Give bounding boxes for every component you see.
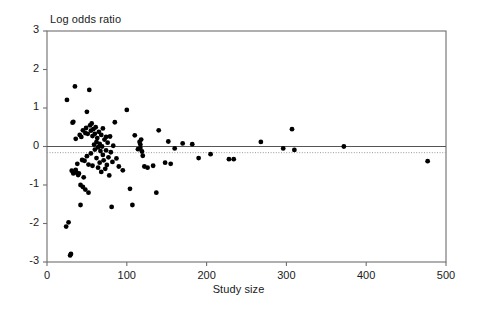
data-point [90, 163, 95, 168]
data-point [69, 252, 74, 257]
data-point [290, 127, 295, 132]
x-tick-label: 300 [266, 269, 306, 281]
data-point [140, 153, 145, 158]
data-point [81, 175, 86, 180]
data-point [128, 186, 133, 191]
data-point [130, 203, 135, 208]
data-point [100, 153, 105, 158]
y-tick-label: -2 [17, 216, 39, 228]
data-point [105, 140, 110, 145]
data-point [77, 171, 82, 176]
data-point [73, 136, 78, 141]
y-tick-label: -1 [17, 177, 39, 189]
data-point [85, 154, 90, 159]
data-point [66, 220, 71, 225]
data-point [94, 156, 99, 161]
data-point [86, 190, 91, 195]
data-point [100, 126, 105, 131]
axis-ticks [43, 31, 446, 266]
data-point [104, 163, 109, 168]
y-tick-label: 3 [17, 23, 39, 35]
data-point [168, 161, 173, 166]
data-point [227, 157, 232, 162]
data-point [107, 173, 112, 178]
data-point [166, 139, 171, 144]
scatter-plot-canvas [0, 0, 477, 311]
data-points [64, 84, 430, 258]
data-point [111, 143, 116, 148]
data-point [112, 120, 117, 125]
data-point [163, 160, 168, 165]
data-point [101, 158, 106, 163]
data-point [82, 158, 87, 163]
data-point [108, 134, 113, 139]
data-point [95, 136, 100, 141]
y-tick-label: 2 [17, 62, 39, 74]
data-point [154, 190, 159, 195]
data-point [190, 142, 195, 147]
data-point [106, 155, 111, 160]
data-point [116, 164, 121, 169]
data-point [104, 148, 109, 153]
x-tick-label: 200 [187, 269, 227, 281]
y-tick-label: 1 [17, 100, 39, 112]
data-point [281, 146, 286, 151]
data-point [132, 133, 137, 138]
data-point [89, 121, 94, 126]
x-tick-label: 400 [346, 269, 386, 281]
x-tick-label: 500 [426, 269, 466, 281]
data-point [75, 161, 80, 166]
data-point [71, 119, 76, 124]
data-point [425, 159, 430, 164]
data-point [64, 224, 69, 229]
data-point [156, 128, 161, 133]
data-point [196, 156, 201, 161]
data-point [180, 141, 185, 146]
data-point [110, 160, 115, 165]
data-point [99, 133, 104, 138]
data-point [124, 108, 129, 113]
data-point [140, 149, 145, 154]
data-point [114, 156, 119, 161]
data-point [109, 205, 114, 210]
data-point [78, 203, 83, 208]
data-point [139, 137, 144, 142]
data-point [99, 170, 104, 175]
x-tick-label: 0 [27, 269, 67, 281]
data-point [84, 126, 89, 131]
data-point [108, 150, 113, 155]
y-tick-label: 0 [17, 139, 39, 151]
data-point [341, 144, 346, 149]
y-tick-label: -3 [17, 254, 39, 266]
x-tick-label: 100 [107, 269, 147, 281]
data-point [120, 168, 125, 173]
data-point [73, 84, 78, 89]
data-point [145, 165, 150, 170]
data-point [87, 88, 92, 93]
data-point [258, 139, 263, 144]
data-point [85, 109, 90, 114]
data-point [100, 144, 105, 149]
funnel-plot-figure: Log odds ratio Study size -3-2-10123 010… [0, 0, 477, 311]
data-point [79, 134, 84, 139]
data-point [65, 98, 70, 103]
data-point [88, 151, 93, 156]
data-point [151, 163, 156, 168]
data-point [96, 165, 101, 170]
data-point [93, 125, 98, 130]
data-point [172, 146, 177, 151]
data-point [208, 152, 213, 157]
data-point [231, 157, 236, 162]
data-point [292, 148, 297, 153]
